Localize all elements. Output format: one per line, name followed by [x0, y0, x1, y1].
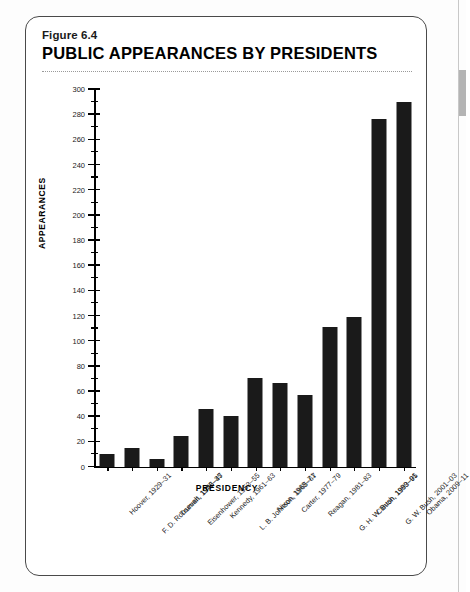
y-tick-label: 240	[72, 160, 85, 169]
bar	[125, 448, 140, 467]
bar	[248, 378, 263, 466]
bar-slot	[120, 89, 145, 467]
x-tick	[157, 467, 158, 471]
figure-number-label: Figure 6.4	[42, 29, 97, 41]
x-tick	[379, 467, 380, 471]
x-tick	[181, 467, 182, 471]
bar	[273, 383, 288, 466]
bar	[322, 327, 337, 467]
title-divider	[42, 71, 412, 72]
bar-slot	[342, 89, 367, 467]
y-tick-label: 120	[72, 311, 85, 320]
bar	[223, 416, 238, 466]
x-tick	[404, 467, 405, 471]
figure-title: PUBLIC APPEARANCES BY PRESIDENTS	[42, 44, 378, 63]
bar-slot	[268, 89, 293, 467]
bar	[396, 102, 411, 467]
x-tick	[280, 467, 281, 471]
y-tick-label: 0	[81, 462, 85, 471]
bar-slot	[367, 89, 392, 467]
bar-slot	[194, 89, 219, 467]
bar	[100, 454, 115, 467]
bar-series	[95, 89, 416, 467]
bar-slot	[144, 89, 169, 467]
bar-slot	[317, 89, 342, 467]
figure-container: Figure 6.4 PUBLIC APPEARANCES BY PRESIDE…	[25, 16, 427, 576]
x-axis-category-label: Hoover, 1929–31	[128, 471, 174, 517]
page-tab-marker	[459, 70, 466, 116]
bar-slot	[243, 89, 268, 467]
y-tick-label: 220	[72, 185, 85, 194]
x-tick	[305, 467, 306, 471]
bar-slot	[391, 89, 416, 467]
x-axis-title: PRESIDENCY	[26, 483, 428, 493]
bar	[371, 119, 386, 466]
y-tick-label: 80	[77, 361, 85, 370]
x-tick	[206, 467, 207, 471]
bar-slot	[218, 89, 243, 467]
bar	[174, 436, 189, 466]
y-tick-label: 60	[77, 387, 85, 396]
bar	[199, 409, 214, 467]
x-tick	[231, 467, 232, 471]
bar-slot	[169, 89, 194, 467]
y-tick-label: 40	[77, 412, 85, 421]
bar-slot	[293, 89, 318, 467]
y-tick-label: 300	[72, 85, 85, 94]
y-tick-label: 160	[72, 261, 85, 270]
x-tick	[107, 467, 108, 471]
bar	[297, 395, 312, 467]
x-tick	[256, 467, 257, 471]
chart-plot-area: 0204060801001201401601802002202402602803…	[63, 89, 419, 487]
bar	[347, 317, 362, 467]
y-tick-label: 20	[77, 437, 85, 446]
bar-slot	[95, 89, 120, 467]
x-tick	[132, 467, 133, 471]
y-axis-title: APPEARANCES	[37, 177, 47, 249]
y-tick-label: 280	[72, 110, 85, 119]
y-tick-label: 180	[72, 236, 85, 245]
y-tick-label: 200	[72, 210, 85, 219]
y-tick-label: 260	[72, 135, 85, 144]
x-tick	[354, 467, 355, 471]
bar	[149, 459, 164, 467]
x-tick	[330, 467, 331, 471]
y-tick-label: 140	[72, 286, 85, 295]
y-tick-label: 100	[72, 336, 85, 345]
